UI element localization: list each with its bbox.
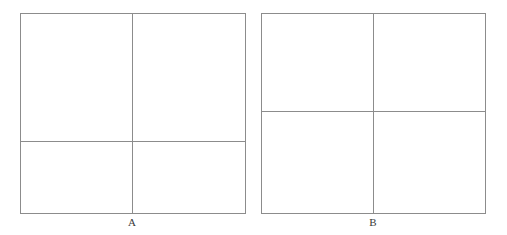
figure-b-label: B (343, 216, 403, 229)
figure-a-square-outline (20, 13, 246, 214)
figure-a-horizontal-divider (20, 141, 246, 142)
figure-b-vertical-divider (373, 13, 374, 214)
figure-a-label: A (102, 216, 162, 229)
figure-a-vertical-divider (132, 13, 133, 214)
figure-b-horizontal-divider (261, 111, 486, 112)
figure-canvas: A B (0, 0, 507, 235)
